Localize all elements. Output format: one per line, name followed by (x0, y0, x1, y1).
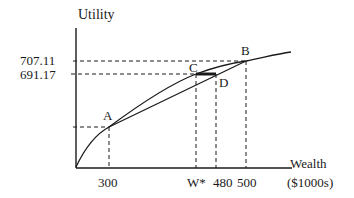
y-tick-691: 691.17 (20, 68, 56, 81)
x-tick-480: 480 (213, 176, 233, 189)
x-tick-wstar: W* (187, 176, 206, 189)
x-tick-500: 500 (237, 176, 257, 189)
x-axis-label-line1: Wealth (290, 157, 327, 170)
x-tick-300: 300 (98, 176, 118, 189)
x-axis-label-line2: ($1000s) (287, 176, 333, 189)
point-label-b: B (241, 44, 250, 57)
chord-a-b (109, 61, 246, 127)
point-label-d: D (219, 76, 228, 89)
utility-diagram: Utility Wealth ($1000s) 707.11 691.17 30… (0, 0, 354, 198)
point-label-a: A (103, 109, 112, 122)
y-tick-707: 707.11 (20, 54, 55, 67)
y-axis-label: Utility (78, 8, 115, 22)
point-label-c: C (189, 61, 198, 74)
